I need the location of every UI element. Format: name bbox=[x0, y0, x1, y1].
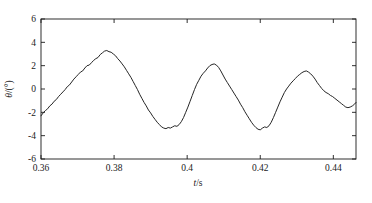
y-tick-label: 2 bbox=[31, 61, 36, 71]
x-axis-tick-labels: 0.360.380.40.420.44 bbox=[33, 163, 342, 173]
plot-frame bbox=[41, 19, 356, 159]
y-tick-label: -2 bbox=[28, 108, 36, 118]
y-tick-label: 6 bbox=[31, 14, 36, 24]
y-tick-label: -4 bbox=[28, 131, 36, 141]
y-axis-label: θ/(°) bbox=[4, 80, 15, 97]
x-tick-label: 0.44 bbox=[325, 163, 342, 173]
figure-container: 0.360.380.40.420.44 -6-4-20246 t/s θ/(°) bbox=[0, 0, 372, 203]
x-axis-label: t/s bbox=[194, 178, 203, 188]
x-tick-label: 0.42 bbox=[252, 163, 269, 173]
line-chart: 0.360.380.40.420.44 -6-4-20246 t/s θ/(°) bbox=[0, 0, 372, 203]
y-tick-label: 0 bbox=[31, 84, 36, 94]
axes-frame bbox=[41, 19, 356, 159]
y-axis-tick-labels: -6-4-20246 bbox=[28, 14, 36, 164]
x-tick-label: 0.4 bbox=[181, 163, 193, 173]
y-axis-label-unit: /(°) bbox=[4, 80, 15, 93]
y-tick-label: -6 bbox=[28, 154, 36, 164]
x-tick-label: 0.38 bbox=[106, 163, 123, 173]
y-tick-label: 4 bbox=[31, 38, 36, 48]
x-tick-label: 0.36 bbox=[33, 163, 50, 173]
x-axis-label-unit: /s bbox=[196, 178, 203, 188]
